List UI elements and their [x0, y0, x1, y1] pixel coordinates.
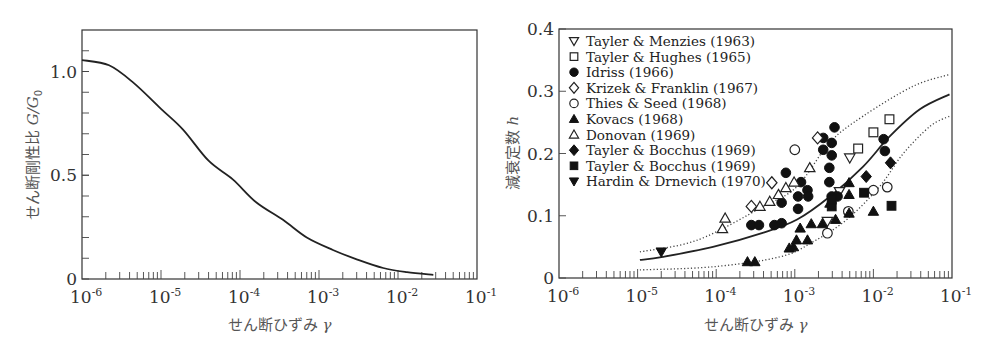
x-tick-label: 10-5 — [149, 286, 181, 307]
data-point-circle-filled — [827, 138, 837, 148]
data-point-triangle-up-filled — [844, 178, 854, 187]
legend-marker-square-open — [570, 53, 578, 61]
legend-item: Kovacs (1968) — [569, 111, 683, 127]
x-tick-label-base: 10 — [386, 287, 408, 307]
legend-item: Tayler & Bocchus (1969) — [569, 142, 755, 158]
x-axis-label-text: せん断ひずみ — [704, 316, 799, 334]
data-point-circle-open — [790, 145, 800, 155]
data-point-square-open — [854, 144, 863, 153]
chart-stiffness-ratio: 10-610-510-410-310-210-100.51.0せん断ひずみ γせ… — [24, 30, 497, 334]
data-point-square-filled — [887, 201, 896, 210]
data-point-triangle-up-open — [805, 163, 815, 172]
x-tick-label: 10-3 — [307, 286, 339, 307]
x-tick-label-base: 10 — [940, 286, 962, 306]
y-tick-label: 0.1 — [527, 206, 554, 226]
x-tick-label-exponent: -6 — [92, 286, 103, 299]
x-tick-label-exponent: -3 — [804, 285, 815, 298]
x-tick-label-exponent: -2 — [883, 285, 894, 298]
legend-item: Tayler & Bocchus (1969) — [570, 158, 755, 174]
legend-item: Tayler & Hughes (1965) — [570, 49, 751, 65]
data-point-circle-open — [882, 182, 892, 192]
legend-marker-circle-open — [570, 99, 578, 107]
data-point-triangle-up-open — [717, 224, 727, 233]
y-tick-label: 0 — [543, 268, 554, 288]
data-point-circle-open — [823, 228, 833, 238]
legend-marker-diamond-open — [569, 82, 578, 93]
legend: Tayler & Menzies (1963)Tayler & Hughes (… — [569, 33, 765, 189]
legend-marker-triangle-down-filled — [569, 178, 578, 186]
x-tick-label: 10-6 — [70, 286, 102, 307]
data-point-diamond-filled — [885, 157, 895, 169]
x-tick-label-exponent: -6 — [569, 285, 580, 298]
data-point-circle-filled — [793, 204, 803, 214]
series-line-g-g0 — [82, 60, 433, 275]
x-tick-label-base: 10 — [228, 287, 250, 307]
x-axis-label-var: γ — [322, 316, 331, 334]
data-point-circle-filled — [781, 168, 791, 178]
y-axis-label-sub: 0 — [33, 90, 44, 96]
data-point-circle-filled — [777, 218, 787, 228]
y-axis-label: せん断剛性比 G/G0 — [24, 90, 44, 220]
data-point-circle-filled — [777, 198, 787, 208]
x-tick-label-exponent: -3 — [329, 286, 340, 299]
chart-damping-ratio: 10-610-510-410-310-210-100.10.20.30.4せん断… — [504, 19, 972, 334]
y-axis-label-text: 減衰定数 — [504, 125, 522, 190]
x-tick-label-base: 10 — [547, 286, 569, 306]
figure: 10-610-510-410-310-210-100.51.0せん断ひずみ γせ… — [0, 0, 983, 351]
data-point-circle-filled — [879, 134, 889, 144]
y-axis-label-var: G/G — [24, 96, 42, 125]
legend-label: Thies & Seed (1968) — [586, 95, 727, 111]
x-tick-label-exponent: -4 — [726, 285, 737, 298]
data-point-circle-filled — [880, 146, 890, 156]
y-axis-ticks — [82, 51, 89, 279]
data-point-circle-filled — [830, 123, 840, 133]
data-point-triangle-up-filled — [868, 206, 878, 215]
x-axis-ticks — [106, 270, 474, 279]
x-tick-label-base: 10 — [704, 286, 726, 306]
x-tick-label-exponent: -5 — [647, 285, 658, 298]
legend-marker-triangle-down-open — [569, 38, 578, 46]
legend-label: Kovacs (1968) — [586, 111, 683, 127]
data-point-circle-filled — [827, 151, 837, 161]
legend-label: Tayler & Hughes (1965) — [586, 49, 751, 65]
x-tick-label-exponent: -1 — [487, 286, 498, 299]
data-point-triangle-down-open — [845, 154, 855, 163]
x-tick-label-base: 10 — [70, 287, 92, 307]
legend-label: Hardin & Drnevich (1970) — [586, 173, 766, 189]
x-tick-label-exponent: -4 — [250, 286, 261, 299]
x-axis-label-text: せん断ひずみ — [228, 316, 323, 334]
x-tick-label-base: 10 — [307, 287, 329, 307]
x-axis-label-var: γ — [798, 316, 807, 334]
legend-item: Donovan (1969) — [569, 127, 695, 143]
plot-frame — [82, 30, 477, 279]
data-point-triangle-up-filled — [802, 235, 812, 244]
x-tick-label: 10-3 — [783, 285, 815, 306]
legend-marker-square-filled — [570, 162, 578, 170]
data-point-triangle-up-filled — [750, 257, 760, 266]
legend-label: Tayler & Menzies (1963) — [586, 33, 755, 49]
x-tick-label: 10-1 — [465, 286, 497, 307]
legend-label: Donovan (1969) — [586, 127, 695, 143]
x-tick-label-exponent: -5 — [171, 286, 182, 299]
y-tick-label: 0.2 — [527, 144, 554, 164]
y-axis-ticks — [559, 29, 566, 278]
data-point-circle-filled — [825, 177, 835, 187]
legend-marker-circle-filled — [570, 68, 578, 76]
data-point-circle-filled — [803, 192, 813, 202]
x-tick-label-exponent: -1 — [962, 285, 973, 298]
x-tick-label-base: 10 — [783, 286, 805, 306]
series-diamond-filled — [861, 157, 896, 183]
legend-label: Tayler & Bocchus (1969) — [586, 158, 756, 174]
legend-marker-triangle-up-open — [569, 130, 578, 138]
legend-item: Hardin & Drnevich (1970) — [569, 173, 765, 189]
x-tick-label: 10-1 — [940, 285, 972, 306]
data-point-circle-open — [869, 185, 879, 195]
x-axis-ticks — [583, 269, 949, 278]
y-axis-label-text: せん断剛性比 — [24, 125, 42, 220]
data-point-square-filled — [827, 195, 836, 204]
x-tick-label: 10-5 — [626, 285, 658, 306]
y-tick-label: 0 — [66, 269, 77, 289]
legend-item: Thies & Seed (1968) — [570, 95, 727, 111]
y-tick-label: 0.5 — [50, 165, 77, 185]
data-point-circle-filled — [818, 145, 828, 155]
